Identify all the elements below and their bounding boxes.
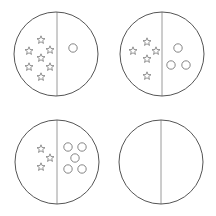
panel-3 (15, 120, 99, 204)
small-circle-icon (69, 44, 77, 52)
pattern-grid (0, 0, 216, 216)
star-icon (152, 47, 160, 55)
small-circle-icon (64, 165, 72, 173)
small-circle-icon (174, 44, 182, 52)
star-icon (37, 54, 45, 62)
panel-4 (119, 120, 203, 204)
star-icon (46, 63, 54, 71)
star-icon (129, 47, 137, 55)
star-icon (37, 73, 45, 81)
panel-2 (120, 12, 204, 96)
star-icon (143, 72, 151, 80)
star-icon (143, 55, 151, 63)
star-icon (143, 38, 151, 46)
star-icon (25, 63, 33, 71)
small-circle-icon (78, 165, 86, 173)
star-icon (37, 36, 45, 44)
small-circle-icon (167, 61, 175, 69)
panel-1 (14, 12, 98, 96)
small-circle-icon (182, 61, 190, 69)
star-icon (37, 145, 45, 153)
small-circle-icon (64, 143, 72, 151)
star-icon (46, 154, 54, 162)
star-icon (46, 46, 54, 54)
small-circle-icon (71, 154, 79, 162)
small-circle-icon (78, 143, 86, 151)
puzzle-diagram (0, 0, 216, 216)
star-icon (25, 47, 33, 55)
star-icon (37, 163, 45, 171)
